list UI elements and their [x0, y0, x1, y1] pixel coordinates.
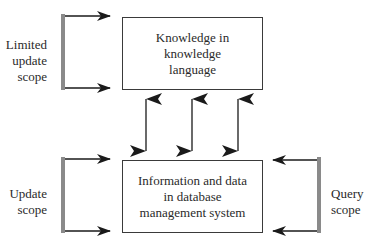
- query-scope-bracket: [273, 157, 321, 233]
- knowledge-box-line-1: Knowledge in: [156, 30, 229, 46]
- limited-update-scope-line-2: update: [0, 53, 47, 69]
- knowledge-box-line-2: knowledge: [156, 46, 229, 62]
- query-scope-line-1: Query: [331, 186, 377, 202]
- database-box-line-1: Information and data: [138, 173, 247, 189]
- limited-update-scope-line-1: Limited: [0, 37, 47, 53]
- database-box-line-3: management system: [138, 205, 247, 221]
- update-scope-bracket: [61, 157, 110, 233]
- update-scope-line-2: scope: [0, 202, 47, 218]
- query-scope-line-2: scope: [331, 202, 377, 218]
- knowledge-box: Knowledge in knowledge language: [122, 17, 263, 90]
- query-scope-label: Query scope: [331, 186, 377, 218]
- knowledge-box-line-3: language: [156, 62, 229, 78]
- database-box-line-2: in database: [138, 189, 247, 205]
- limited-update-scope-bracket: [61, 14, 110, 90]
- database-box: Information and data in database managem…: [122, 160, 263, 233]
- limited-update-scope-label: Limited update scope: [0, 37, 47, 85]
- update-scope-line-1: Update: [0, 186, 47, 202]
- knowledge-box-text: Knowledge in knowledge language: [156, 30, 229, 78]
- limited-update-scope-line-3: scope: [0, 69, 47, 85]
- update-scope-label: Update scope: [0, 186, 47, 218]
- database-box-text: Information and data in database managem…: [138, 173, 247, 221]
